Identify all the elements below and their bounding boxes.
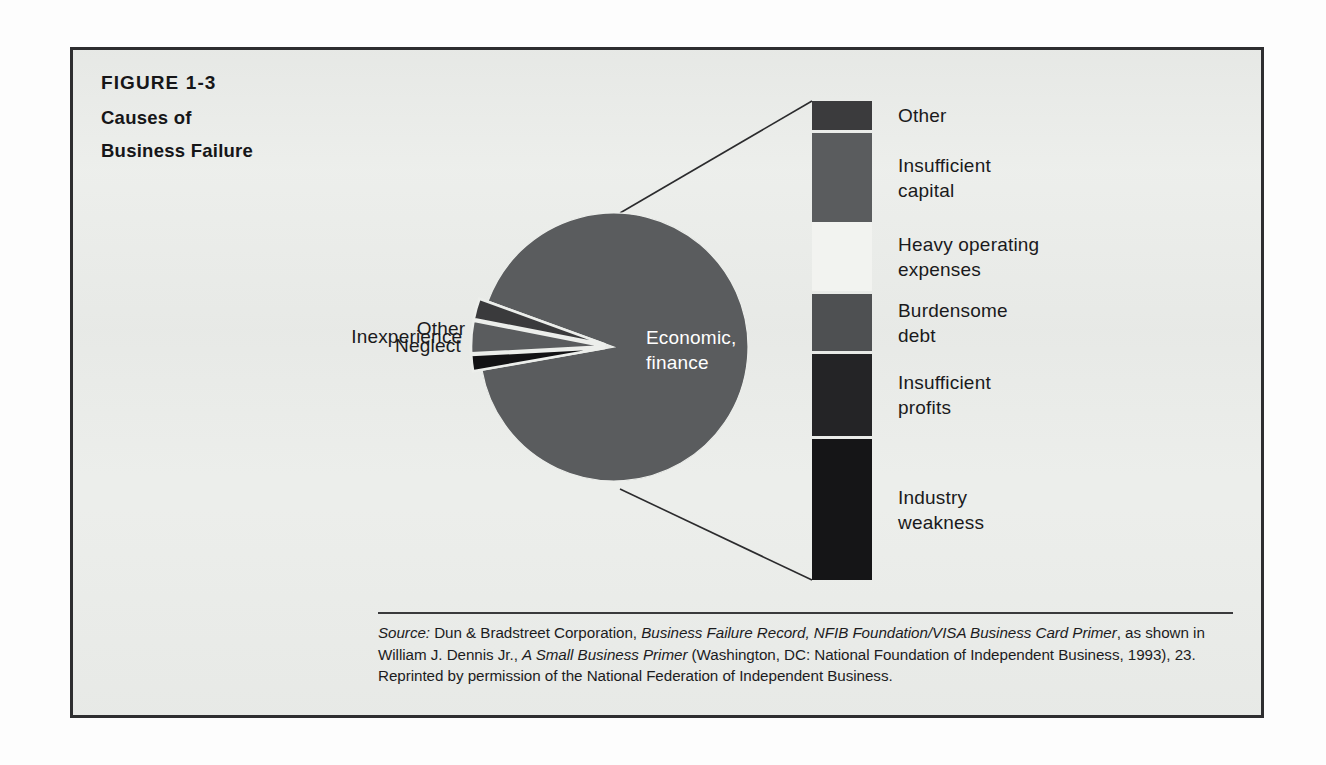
source-prefix: Source:	[378, 624, 430, 641]
source-divider	[378, 612, 1233, 614]
callout-lines	[620, 101, 812, 580]
bar-segment-heavy-operating-expenses	[812, 222, 872, 291]
bar-label-burdensome-debt: Burdensome debt	[898, 298, 1008, 348]
bar-segment-burdensome-debt	[812, 294, 872, 351]
bar-label-insufficient-capital: Insufficient capital	[898, 153, 991, 203]
figure-frame: FIGURE 1-3 Causes of Business Failure Ne…	[70, 47, 1264, 718]
pie-label-economic-finance: Economic, finance	[646, 325, 737, 375]
pie-label-neglect: Neglect	[395, 335, 461, 357]
bar-segment-other	[812, 101, 872, 130]
figure-number: FIGURE 1-3	[101, 72, 421, 94]
figure-title-block: FIGURE 1-3 Causes of Business Failure	[101, 72, 421, 173]
pie-slice-neglect	[471, 348, 605, 371]
bar-label-other: Other	[898, 103, 947, 128]
callout-line-2	[620, 489, 812, 580]
figure-title-line-2: Business Failure	[101, 140, 421, 162]
pie-label-inexperience: Inexperience	[351, 326, 462, 348]
figure-title-line-1: Causes of	[101, 107, 421, 129]
callout-line-1	[620, 101, 812, 213]
bar-segment-insufficient-capital	[812, 133, 872, 222]
pie-label-other: Other	[417, 318, 466, 340]
pie-label-economic-line-1: Economic,	[646, 325, 737, 350]
bar-segment-insufficient-profits	[812, 354, 872, 436]
pie-slice-other	[474, 299, 606, 345]
pie-slice-inexperience	[471, 321, 605, 354]
pie-slices	[471, 213, 748, 481]
bar-label-industry-weakness: Industry weakness	[898, 485, 984, 535]
bar-label-insufficient-profits: Insufficient profits	[898, 370, 991, 420]
page-canvas: FIGURE 1-3 Causes of Business Failure Ne…	[0, 0, 1326, 765]
source-segment-4: A Small Business Primer	[522, 646, 687, 663]
pie-slice-economic-finance	[482, 213, 748, 481]
source-segment-1: Dun & Bradstreet Corporation,	[430, 624, 641, 641]
pie-label-economic-line-2: finance	[646, 350, 737, 375]
source-note: Source: Dun & Bradstreet Corporation, Bu…	[378, 622, 1240, 687]
breakout-bar-segments	[812, 101, 872, 580]
bar-segment-industry-weakness	[812, 439, 872, 580]
bar-label-heavy-operating-expenses: Heavy operating expenses	[898, 232, 1039, 282]
source-segment-2: Business Failure Record, NFIB Foundation…	[641, 624, 1117, 641]
